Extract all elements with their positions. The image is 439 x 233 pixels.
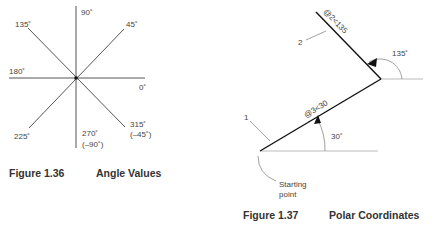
start-label-line2: point <box>279 190 297 199</box>
polar-coordinates-diagram: 1 2 @3<30 @2<135 30˚ 135˚ Starting point <box>244 7 423 199</box>
segment-2-label: 2 <box>298 38 303 47</box>
figure-1-36-title: Angle Values <box>96 167 161 179</box>
segment-2 <box>316 12 381 79</box>
label-315-alt: (–45˚) <box>130 130 152 139</box>
arrowhead-30 <box>314 115 321 124</box>
angle-135-label: 135˚ <box>392 49 408 58</box>
label-270: 270˚ <box>82 129 98 138</box>
label-225: 225˚ <box>14 132 30 141</box>
leader-2 <box>306 31 326 40</box>
label-90: 90˚ <box>81 8 93 17</box>
origin-point <box>75 77 78 80</box>
figures-canvas: 90˚ 45˚ 135˚ 180˚ 0˚ 225˚ 270˚ (–90˚) 31… <box>0 0 439 233</box>
label-315: 315˚ <box>130 120 146 129</box>
segment-1-coord: @3<30 <box>302 98 330 119</box>
start-label-line1: Starting <box>279 180 307 189</box>
label-135: 135˚ <box>15 20 31 29</box>
figure-1-37-number: Figure 1.37 <box>243 209 298 221</box>
leader-1 <box>250 121 270 141</box>
arc-30 <box>318 120 325 151</box>
label-270-alt: (–90˚) <box>82 140 104 149</box>
angle-30-label: 30˚ <box>331 132 343 141</box>
figure-1-37-title: Polar Coordinates <box>329 209 419 221</box>
label-0: 0˚ <box>139 83 146 92</box>
figure-1-36-number: Figure 1.36 <box>9 167 64 179</box>
angle-values-diagram: 90˚ 45˚ 135˚ 180˚ 0˚ 225˚ 270˚ (–90˚) 31… <box>9 6 152 149</box>
leader-start <box>258 156 276 181</box>
label-180: 180˚ <box>9 67 25 76</box>
segment-1-label: 1 <box>244 113 249 122</box>
segment-1 <box>260 79 381 151</box>
label-45: 45˚ <box>126 20 138 29</box>
